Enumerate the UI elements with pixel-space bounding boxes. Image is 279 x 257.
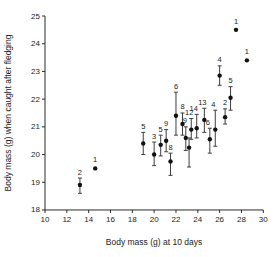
point-count-label: 9 [183, 116, 187, 125]
data-point [158, 143, 162, 147]
x-tick-label: 26 [215, 215, 224, 224]
data-point [189, 127, 193, 131]
y-tick-label: 19 [31, 178, 40, 187]
point-count-label: 1 [245, 47, 249, 56]
x-axis-title: Body mass (g) at 10 days [45, 237, 263, 247]
point-count-label: 5 [228, 76, 232, 85]
data-point [174, 114, 178, 118]
data-point [208, 137, 212, 141]
point-count-label: 6 [174, 82, 178, 91]
plot-canvas: 1012141618202224262830181920212223242521… [0, 0, 279, 257]
point-count-label: 5 [159, 125, 163, 134]
point-count-label: 1 [93, 155, 97, 164]
x-tick-label: 20 [150, 215, 159, 224]
point-count-label: 14 [190, 104, 198, 113]
point-count-label: 6 [206, 118, 210, 127]
y-tick-label: 18 [31, 205, 40, 214]
data-point [78, 183, 82, 187]
point-count-label: 1 [234, 17, 238, 26]
y-tick-label: 22 [31, 95, 40, 104]
y-tick-label: 24 [31, 39, 40, 48]
x-tick-label: 28 [237, 215, 246, 224]
y-tick-label: 25 [31, 12, 40, 21]
data-point [141, 141, 145, 145]
x-tick-label: 24 [193, 215, 202, 224]
x-tick-label: 14 [84, 215, 93, 224]
point-count-label: 2 [223, 98, 227, 107]
data-point [168, 159, 172, 163]
x-tick-label: 16 [106, 215, 115, 224]
x-tick-label: 22 [172, 215, 181, 224]
x-tick-label: 30 [259, 215, 268, 224]
y-tick-label: 21 [31, 122, 40, 131]
data-point [228, 96, 232, 100]
point-count-label: 3 [152, 132, 156, 141]
scatter-plot-figure: 1012141618202224262830181920212223242521… [0, 0, 279, 257]
point-count-label: 8 [168, 143, 172, 152]
point-count-label: 13 [198, 98, 206, 107]
point-count-label: 8 [180, 102, 184, 111]
y-tick-label: 20 [31, 150, 40, 159]
point-count-label: 9 [164, 119, 168, 128]
point-count-label: 4 [211, 100, 215, 109]
point-count-label: 5 [141, 122, 145, 131]
y-tick-label: 23 [31, 67, 40, 76]
x-tick-label: 12 [62, 215, 71, 224]
data-point [93, 166, 97, 170]
data-point [187, 145, 191, 149]
data-point [223, 115, 227, 119]
data-point [245, 58, 249, 62]
data-point [152, 152, 156, 156]
data-point [195, 126, 199, 130]
data-point [217, 73, 221, 77]
x-tick-label: 18 [128, 215, 137, 224]
data-point [234, 28, 238, 32]
x-tick-label: 10 [41, 215, 50, 224]
data-point [213, 127, 217, 131]
point-count-label: 2 [78, 168, 82, 177]
point-count-label: 4 [218, 55, 222, 64]
y-axis-title: Body mass (g) when caught after fledging [3, 3, 15, 223]
